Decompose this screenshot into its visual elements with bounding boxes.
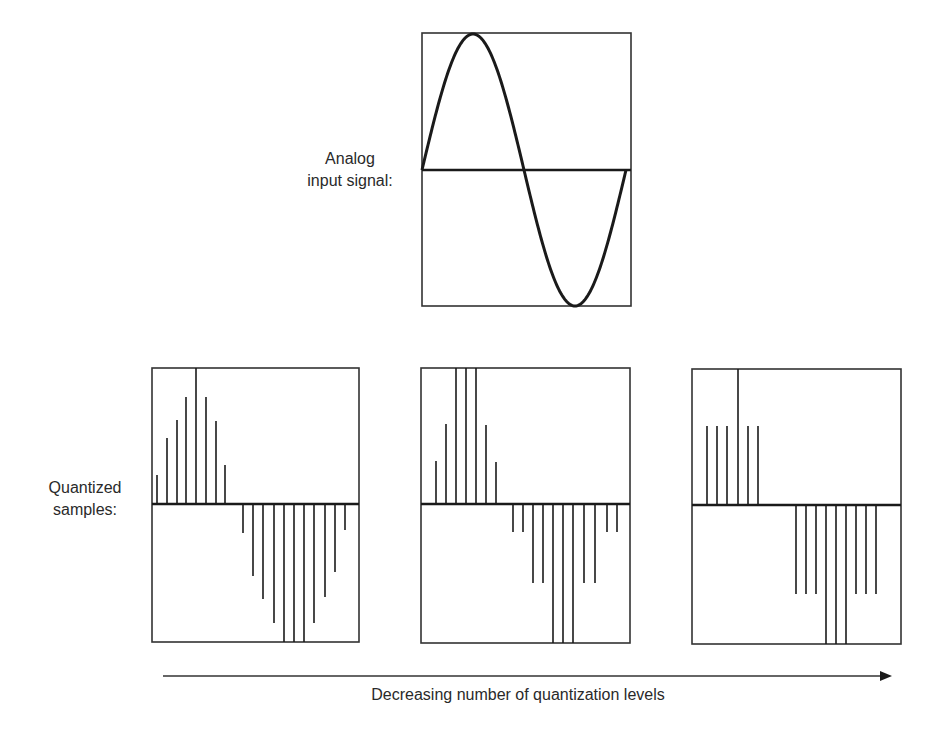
quantized-panel-frame xyxy=(421,368,630,643)
analog-label-line2: input signal: xyxy=(292,170,408,192)
analog-signal-panel xyxy=(422,33,631,306)
direction-arrow xyxy=(163,671,892,681)
quantized-samples-label: Quantized samples: xyxy=(32,477,138,520)
arrow-caption: Decreasing number of quantization levels xyxy=(300,684,736,706)
analog-label-line1: Analog xyxy=(292,148,408,170)
quantized-panels xyxy=(152,368,901,644)
quantized-label-line2: samples: xyxy=(32,499,138,521)
quantized-panel-fewer-levels xyxy=(421,368,630,643)
quantization-diagram xyxy=(0,0,938,737)
analog-input-label: Analog input signal: xyxy=(292,148,408,191)
arrow-head-icon xyxy=(880,671,892,681)
quantized-panel-fewest-levels xyxy=(692,369,901,644)
quantized-label-line1: Quantized xyxy=(32,477,138,499)
quantized-panel-many-levels xyxy=(152,368,359,642)
arrow-caption-text: Decreasing number of quantization levels xyxy=(300,684,736,706)
